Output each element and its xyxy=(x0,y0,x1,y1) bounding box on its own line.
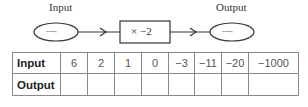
input-row: Input 6 2 1 0 −3 −11 −20 −1000 xyxy=(13,53,299,74)
output-cell[interactable] xyxy=(88,74,115,96)
output-cell[interactable] xyxy=(195,74,222,96)
input-cell: 6 xyxy=(61,53,88,74)
output-cell[interactable] xyxy=(61,74,88,96)
input-cell: 0 xyxy=(142,53,169,74)
input-cell: −11 xyxy=(195,53,222,74)
input-cell: −20 xyxy=(222,53,249,74)
operation-text: × −2 xyxy=(131,25,152,37)
output-placeholder: ...... xyxy=(222,24,233,34)
output-cell[interactable] xyxy=(169,74,195,96)
output-cell[interactable] xyxy=(142,74,169,96)
input-cell: −1000 xyxy=(249,53,299,74)
input-row-header: Input xyxy=(13,53,61,74)
output-row: Output xyxy=(13,74,299,96)
input-cell: 2 xyxy=(88,53,115,74)
output-row-header: Output xyxy=(13,74,61,96)
input-output-table: Input 6 2 1 0 −3 −11 −20 −1000 Output xyxy=(12,52,299,96)
output-cell[interactable] xyxy=(222,74,249,96)
output-cell[interactable] xyxy=(115,74,142,96)
input-cell: 1 xyxy=(115,53,142,74)
input-placeholder: ...... xyxy=(46,24,57,34)
input-cell: −3 xyxy=(169,53,195,74)
output-cell[interactable] xyxy=(249,74,299,96)
